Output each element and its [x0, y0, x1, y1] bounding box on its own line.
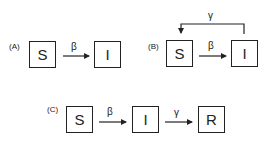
panel-a-node-i: I: [94, 41, 121, 68]
panel-a-node-s: S: [29, 41, 56, 68]
panel-c-node-r: R: [198, 106, 225, 133]
panel-b-rate-gamma: γ: [208, 11, 213, 21]
panel-c-node-i: I: [132, 106, 159, 133]
panel-b-node-i: I: [231, 40, 258, 67]
panel-c-node-s: S: [66, 106, 93, 133]
panel-c-rate-gamma: γ: [174, 108, 179, 118]
panel-b-node-s: S: [166, 40, 193, 67]
panel-a-rate-beta: β: [71, 42, 77, 52]
panel-a-label: (A): [9, 43, 20, 51]
panel-c-label: (C): [47, 106, 58, 114]
panel-b-label: (B): [148, 43, 159, 51]
panel-b-rate-beta: β: [208, 41, 214, 51]
panel-c-rate-beta: β: [107, 107, 113, 117]
panel-b-feedback-arrow-i-to-s: [181, 24, 244, 34]
